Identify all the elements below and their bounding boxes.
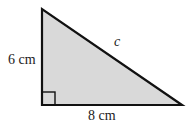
vertical-leg-label: 6 cm xyxy=(8,52,36,67)
horizontal-leg-label: 8 cm xyxy=(88,108,116,123)
triangle-shape xyxy=(42,9,182,105)
triangle-diagram: 6 cm 8 cm c xyxy=(0,0,191,126)
hypotenuse-label: c xyxy=(114,34,121,49)
